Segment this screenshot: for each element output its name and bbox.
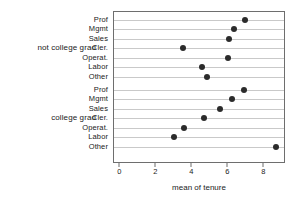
- category-label: Sales: [89, 103, 108, 112]
- data-point: [226, 36, 232, 42]
- x-tick-label: 4: [189, 167, 193, 176]
- category-axis-labels: ProfMgmtSalesCler.Operat.LaborOtherProfM…: [0, 0, 112, 198]
- category-label: Mgmt: [89, 94, 108, 103]
- category-label: Operat.: [82, 122, 108, 131]
- category-label: Labor: [88, 132, 108, 141]
- gridline: [114, 109, 284, 110]
- gridline: [114, 39, 284, 40]
- gridline: [114, 20, 284, 21]
- data-point: [171, 134, 177, 140]
- gridline: [114, 118, 284, 119]
- category-label: Prof: [94, 14, 108, 23]
- data-point: [180, 45, 186, 51]
- x-tick-label: 6: [225, 167, 229, 176]
- x-tick-label: 0: [117, 167, 121, 176]
- category-label: Prof: [94, 84, 108, 93]
- gridline: [114, 99, 284, 100]
- x-axis-title: mean of tenure: [113, 183, 285, 192]
- gridline: [114, 48, 284, 49]
- category-label: Other: [89, 71, 108, 80]
- gridline: [114, 128, 284, 129]
- data-point: [225, 55, 231, 61]
- x-tick-label: 8: [261, 167, 265, 176]
- data-point: [273, 144, 279, 150]
- category-label: Labor: [88, 62, 108, 71]
- gridline: [114, 137, 284, 138]
- data-point: [217, 106, 223, 112]
- category-label: Operat.: [82, 52, 108, 61]
- plot-area: [113, 11, 285, 163]
- data-point: [181, 125, 187, 131]
- dot-plot-chart: not college gradcollege grad ProfMgmtSal…: [0, 0, 292, 198]
- category-label: Other: [89, 141, 108, 150]
- data-point: [231, 26, 237, 32]
- category-label: Cler.: [92, 43, 108, 52]
- gridline: [114, 58, 284, 59]
- category-label: Mgmt: [89, 24, 108, 33]
- data-point: [201, 115, 207, 121]
- gridline: [114, 147, 284, 148]
- x-axis: 02468: [113, 163, 285, 175]
- category-label: Cler.: [92, 113, 108, 122]
- x-tick-label: 2: [153, 167, 157, 176]
- category-label: Sales: [89, 33, 108, 42]
- gridline: [114, 77, 284, 78]
- data-point: [241, 87, 247, 93]
- data-point: [204, 74, 210, 80]
- data-point: [199, 64, 205, 70]
- data-point: [242, 17, 248, 23]
- gridline: [114, 29, 284, 30]
- data-point: [229, 96, 235, 102]
- gridline: [114, 90, 284, 91]
